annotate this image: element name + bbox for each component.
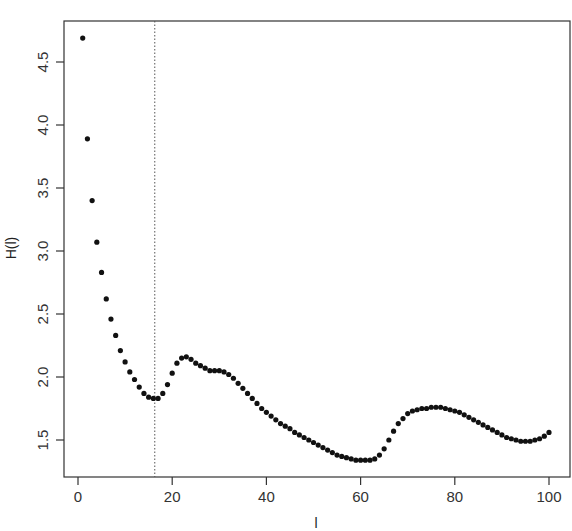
data-point [466, 415, 471, 420]
data-point [108, 316, 113, 321]
data-point [542, 434, 547, 439]
data-point [203, 366, 208, 371]
data-point [400, 416, 405, 421]
data-point [415, 407, 420, 412]
data-point [471, 417, 476, 422]
data-point [127, 369, 132, 374]
data-point [221, 369, 226, 374]
data-point [306, 437, 311, 442]
x-tick-label: 0 [74, 488, 82, 505]
data-point [537, 436, 542, 441]
data-point [90, 198, 95, 203]
data-point [523, 439, 528, 444]
data-point [429, 405, 434, 410]
data-point [367, 458, 372, 463]
data-point [259, 406, 264, 411]
data-point [188, 357, 193, 362]
data-point [532, 437, 537, 442]
data-point [410, 408, 415, 413]
data-point [151, 396, 156, 401]
data-point [94, 240, 99, 245]
data-point [297, 432, 302, 437]
data-points [80, 35, 551, 462]
data-point [226, 372, 231, 377]
data-point [118, 348, 123, 353]
y-tick-label: 4.5 [34, 52, 51, 73]
data-point [320, 445, 325, 450]
x-tick-label: 100 [536, 488, 561, 505]
data-point [160, 391, 165, 396]
data-point [146, 395, 151, 400]
data-point [99, 270, 104, 275]
data-point [419, 406, 424, 411]
data-point [236, 381, 241, 386]
data-point [123, 359, 128, 364]
data-point [325, 447, 330, 452]
data-point [113, 333, 118, 338]
x-tick-label: 20 [164, 488, 181, 505]
data-point [287, 426, 292, 431]
data-point [382, 446, 387, 451]
x-axis-label: l [314, 515, 317, 531]
data-point [485, 425, 490, 430]
x-axis: 020406080100 [74, 477, 562, 505]
data-point [212, 368, 217, 373]
data-point [334, 453, 339, 458]
data-point [240, 386, 245, 391]
data-point [363, 458, 368, 463]
data-point [132, 377, 137, 382]
data-point [179, 356, 184, 361]
x-tick-label: 80 [446, 488, 463, 505]
data-point [250, 396, 255, 401]
data-point [165, 382, 170, 387]
data-point [391, 429, 396, 434]
data-point [269, 413, 274, 418]
data-point [207, 368, 212, 373]
data-point [546, 430, 551, 435]
data-point [311, 440, 316, 445]
data-point [353, 458, 358, 463]
data-point [476, 420, 481, 425]
data-point [443, 406, 448, 411]
data-point [155, 396, 160, 401]
data-point [137, 384, 142, 389]
data-point [424, 406, 429, 411]
data-point [452, 408, 457, 413]
data-point [273, 417, 278, 422]
data-point [438, 405, 443, 410]
data-point [330, 450, 335, 455]
data-point [372, 456, 377, 461]
data-point [198, 363, 203, 368]
data-point [301, 435, 306, 440]
y-axis: 1.52.02.53.03.54.04.5 [34, 52, 64, 451]
data-point [528, 439, 533, 444]
data-point [358, 458, 363, 463]
data-point [344, 455, 349, 460]
data-point [433, 405, 438, 410]
data-point [377, 453, 382, 458]
data-point [495, 430, 500, 435]
data-point [405, 411, 410, 416]
data-point [264, 410, 269, 415]
y-tick-label: 4.0 [34, 115, 51, 136]
data-point [490, 427, 495, 432]
data-point [254, 401, 259, 406]
y-tick-label: 2.0 [34, 367, 51, 388]
plot-frame [64, 21, 570, 477]
data-point [518, 439, 523, 444]
data-point [504, 435, 509, 440]
data-point [174, 361, 179, 366]
data-point [193, 361, 198, 366]
data-point [457, 410, 462, 415]
scatter-chart: 1.52.02.53.03.54.04.5 020406080100 H(l) … [0, 0, 572, 531]
data-point [509, 436, 514, 441]
data-point [480, 422, 485, 427]
data-point [316, 442, 321, 447]
data-point [170, 371, 175, 376]
data-point [339, 454, 344, 459]
data-point [184, 354, 189, 359]
data-point [278, 421, 283, 426]
data-point [245, 391, 250, 396]
data-point [386, 437, 391, 442]
data-point [85, 136, 90, 141]
